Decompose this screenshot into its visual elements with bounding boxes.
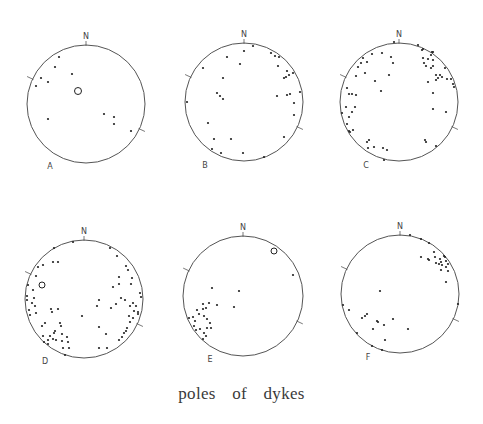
pole-point [202,308,204,310]
panel-label: A [47,162,53,171]
pole-point [52,261,54,263]
stereonet-b: NB [185,30,303,170]
panel-label: E [207,355,212,364]
pole-point [348,116,350,118]
pole-point [432,59,434,61]
pole-point [357,66,359,68]
pole-point [437,77,439,79]
pole-point [242,152,244,154]
pole-point [109,247,111,249]
pole-point [112,286,114,288]
pole-point [409,234,411,236]
pole-point [110,307,112,309]
pole-point [96,305,98,307]
pole-point [47,118,49,120]
pole-point [137,313,139,315]
pole-point [43,341,45,343]
pole-point [26,299,28,301]
pole-point [430,67,432,69]
pole-point [445,281,447,283]
pole-point [198,313,200,315]
pole-point [438,263,440,265]
pole-point [360,62,362,64]
pole-point [366,313,368,315]
pole-point [125,265,127,267]
pole-point [230,138,232,140]
pole-point [125,330,127,332]
mean-pole-marker [39,282,45,288]
pole-point [286,70,288,72]
pole-point [205,307,207,309]
pole-point [274,55,276,57]
mean-pole-marker [75,88,82,95]
pole-point [444,67,446,69]
pole-point [116,255,118,257]
pole-point [381,52,383,54]
pole-point [441,264,443,266]
pole-point [407,328,409,330]
pole-point [392,318,394,320]
pole-point [299,91,301,93]
pole-point [208,302,210,304]
pole-point [132,302,134,304]
panel-label: C [363,161,369,170]
pole-point [283,77,285,79]
north-label: N [397,222,403,231]
pole-point [453,86,455,88]
pole-point [445,266,447,268]
pole-point [68,347,70,349]
pole-point [210,327,212,329]
pole-point [207,122,209,124]
pole-point [42,264,44,266]
pole-point [220,152,222,154]
primitive-circle [27,45,145,163]
pole-point [355,75,357,77]
pole-point [113,123,115,125]
pole-point [450,78,452,80]
pole-point [206,318,208,320]
pole-point [47,339,49,341]
pole-point [61,333,63,335]
pole-point [216,304,218,306]
pole-point [374,80,376,82]
pole-point [193,325,195,327]
pole-point [381,349,383,351]
pole-point [130,130,132,132]
pole-point [205,335,207,337]
pole-point [32,289,34,291]
pole-point [64,354,66,356]
pole-point [58,56,60,58]
pole-point [435,79,437,81]
pole-point [29,314,31,316]
pole-point [278,56,280,58]
pole-point [422,57,424,59]
pole-point [346,87,348,89]
pole-point [433,251,435,253]
pole-point [222,77,224,79]
pole-point [192,316,194,318]
pole-point [67,341,69,343]
pole-point [211,287,213,289]
pole-point [432,51,434,53]
pole-point [34,305,36,307]
pole-point [440,269,442,271]
stereonet-c: NC [340,30,458,170]
pole-point [123,332,125,334]
pole-point [55,339,57,341]
pole-point [444,256,446,258]
panel-label: D [42,357,48,366]
pole-point [342,304,344,306]
pole-point [121,336,123,338]
pole-point [384,339,386,341]
pole-point [293,102,295,104]
pole-point [106,347,108,349]
pole-point [427,58,429,60]
pole-point [140,296,142,298]
pole-point [40,77,42,79]
pole-point [440,261,442,263]
pole-point [367,147,369,149]
pole-point [66,336,68,338]
pole-point [346,123,348,125]
pole-point [252,45,254,47]
pole-point [50,308,52,310]
